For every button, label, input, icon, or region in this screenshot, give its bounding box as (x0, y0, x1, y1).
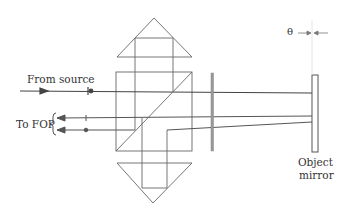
source-arrow-icon (40, 88, 48, 94)
object-mirror (312, 75, 318, 152)
beamsplitter-diagonal (116, 72, 192, 151)
theta-label: θ (287, 26, 293, 37)
object-mirror-label-1: Object (298, 156, 333, 168)
from-source-label: From source (27, 73, 95, 85)
to-fop-label: To FOP (16, 118, 55, 130)
theta-arrow-left-icon (314, 31, 318, 35)
theta-arrow-right-icon (307, 31, 311, 35)
top-prism (117, 18, 192, 57)
return-beam-upper (57, 116, 312, 118)
fop-arrow-lower-icon (57, 127, 65, 133)
source-dot-icon (89, 89, 93, 93)
fop-arrow-upper-icon (57, 115, 65, 121)
compensator-plate (211, 73, 214, 151)
bottom-prism (117, 163, 192, 203)
object-mirror-label-2: mirror (299, 169, 334, 181)
source-beam (20, 91, 312, 93)
